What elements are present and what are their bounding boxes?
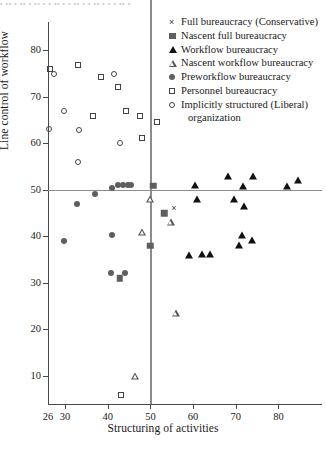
data-point-open-triangle [131, 373, 139, 380]
marker-glyph [169, 60, 177, 67]
data-point-filled-triangle [248, 236, 256, 243]
legend-item-label-continuation: organization [168, 112, 326, 125]
y-axis-tick-label: 10 [31, 371, 42, 381]
legend-marker-filled-triangle-icon [168, 44, 181, 57]
y-axis-tick [43, 190, 48, 191]
data-point-open-circle [46, 126, 52, 132]
y-axis-tick [43, 329, 48, 330]
data-point-filled-triangle [191, 182, 199, 189]
data-point-filled-triangle [283, 182, 291, 189]
legend-marker-open-square-icon [168, 85, 181, 98]
x-axis-tick [65, 404, 66, 409]
data-point-open-square [90, 113, 96, 119]
y-axis-tick [43, 97, 48, 98]
x-axis-tick-label: 50 [145, 411, 156, 422]
y-axis-tick [43, 236, 48, 237]
legend-item-label: Nascent workflow bureaucracy [181, 57, 313, 70]
data-point-filled-triangle [239, 182, 247, 189]
y-axis-tick-label: 60 [31, 138, 42, 148]
data-point-open-circle [111, 71, 117, 77]
data-point-filled-triangle [206, 250, 214, 257]
legend-marker-filled-circle-icon [168, 71, 181, 84]
data-point-filled-triangle [185, 251, 193, 258]
data-point-filled-circle [108, 270, 114, 276]
data-point-filled-triangle [193, 196, 201, 203]
legend-item: Preworkflow bureaucracy [168, 71, 326, 84]
data-point-filled-square [147, 242, 154, 249]
x-axis-tick-label: 80 [273, 411, 284, 422]
clipped-header-text: • •• • •• • •• • • •• • • •• • • •• • • … [0, 0, 326, 7]
y-axis-tick-label: 80 [31, 45, 42, 55]
data-point-filled-circle [122, 270, 128, 276]
x-axis-tick-label: 60 [188, 411, 199, 422]
marker-glyph [169, 46, 177, 53]
data-point-filled-square [161, 210, 168, 217]
y-axis-tick-label: 70 [31, 92, 42, 102]
data-point-open-triangle [167, 218, 175, 225]
legend-marker-open-triangle-icon [168, 57, 181, 70]
data-point-filled-circle [109, 232, 115, 238]
marker-glyph [169, 88, 175, 94]
y-axis-title: Line control of workflow [0, 31, 10, 150]
x-axis-tick [108, 404, 109, 409]
x-axis-tick [193, 404, 194, 409]
legend-marker-filled-square-icon [168, 30, 181, 43]
data-point-open-square [98, 74, 104, 80]
y-axis-tick-label: 50 [31, 185, 42, 195]
data-point-filled-circle [61, 238, 67, 244]
legend-item-label: Nascent full bureaucracy [181, 30, 287, 43]
legend-item: ×Full bureaucracy (Conservative) [168, 16, 326, 29]
y-axis-tick [43, 283, 48, 284]
data-point-open-square [137, 113, 143, 119]
marker-glyph [169, 74, 175, 80]
legend: ×Full bureaucracy (Conservative)Nascent … [168, 16, 326, 125]
data-point-filled-square [150, 183, 157, 190]
data-point-filled-triangle [235, 241, 243, 248]
data-point-open-square [118, 392, 124, 398]
marker-glyph [169, 102, 175, 108]
data-point-filled-triangle [294, 177, 302, 184]
legend-item-label: Workflow bureaucracy [181, 44, 278, 57]
data-point-open-square [139, 135, 145, 141]
data-point-filled-circle [109, 185, 115, 191]
reference-line-horizontal [48, 190, 322, 191]
legend-item: Workflow bureaucracy [168, 44, 326, 57]
x-axis-tick [150, 404, 151, 409]
legend-item-label: Implicitly structured (Liberal) [181, 99, 308, 112]
data-point-open-triangle [146, 196, 154, 203]
y-axis-tick [43, 376, 48, 377]
data-point-filled-circle [128, 182, 134, 188]
chart-figure: • •• • •• • •• • • •• • • •• • • •• • • … [0, 0, 326, 451]
data-point-filled-circle [115, 182, 121, 188]
data-point-open-triangle [172, 310, 180, 317]
x-axis-tick [236, 404, 237, 409]
data-point-open-circle [51, 71, 57, 77]
y-axis-tick-label: 40 [31, 231, 42, 241]
x-axis-title: Structuring of activities [0, 422, 326, 434]
legend-item: Nascent full bureaucracy [168, 30, 326, 43]
x-axis-tick-label: 30 [60, 411, 71, 422]
data-point-open-circle [117, 140, 123, 146]
x-axis-tick [278, 404, 279, 409]
legend-item: Nascent workflow bureaucracy [168, 57, 326, 70]
data-point-filled-triangle [230, 196, 238, 203]
legend-marker-open-circle-icon [168, 99, 181, 112]
legend-item: Personnel bureaucracy [168, 85, 326, 98]
data-point-filled-circle [92, 191, 98, 197]
data-point-open-square [154, 119, 160, 125]
data-point-x-cross: × [171, 205, 176, 212]
data-point-filled-triangle [238, 231, 246, 238]
data-point-open-square [123, 108, 129, 114]
legend-item-label: Personnel bureaucracy [181, 85, 277, 98]
data-point-filled-triangle [240, 203, 248, 210]
data-point-open-circle [75, 159, 81, 165]
data-point-open-circle [61, 108, 67, 114]
y-axis-tick-label: 30 [31, 278, 42, 288]
legend-item-label: Full bureaucracy (Conservative) [181, 16, 318, 29]
data-point-filled-triangle [249, 172, 257, 179]
marker-glyph: × [169, 19, 174, 26]
data-point-filled-triangle [198, 250, 206, 257]
data-point-filled-triangle [224, 172, 232, 179]
data-point-open-circle [76, 127, 82, 133]
y-axis-tick [43, 50, 48, 51]
